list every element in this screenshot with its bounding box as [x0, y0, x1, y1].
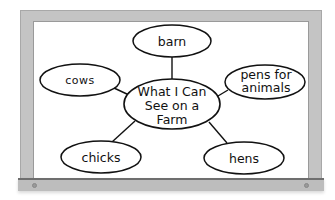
node-cows-label: cows: [65, 74, 95, 87]
center-line-2: See on a: [145, 98, 200, 113]
node-center: What I Can See on a Farm: [124, 79, 220, 129]
node-chicks-label: chicks: [82, 150, 121, 165]
connector-cows: [114, 88, 129, 95]
node-hens: hens: [204, 142, 284, 174]
center-line-1: What I Can: [138, 84, 207, 99]
center-line-3: Farm: [157, 112, 188, 127]
node-pens-line-2: animals: [242, 80, 291, 95]
node-barn-label: barn: [158, 34, 186, 49]
connector-pens: [218, 90, 228, 96]
concept-web: barn cows What I Can See on a Farm pens …: [0, 0, 335, 200]
node-chicks: chicks: [61, 141, 141, 173]
connector-hens: [209, 122, 227, 143]
node-cows: cows: [40, 64, 120, 96]
node-barn: barn: [133, 25, 211, 57]
node-hens-label: hens: [229, 151, 259, 166]
connector-chicks: [112, 121, 135, 142]
node-pens-for-animals: pens for animals: [225, 65, 305, 99]
